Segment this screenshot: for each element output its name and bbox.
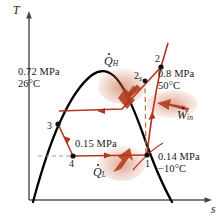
heat-absorbed-subscript: L: [102, 170, 106, 179]
expansion-direction-arrow: [64, 136, 71, 144]
state2-pressure-label: 0.8 MPa: [158, 68, 194, 79]
heat-rejected-subscript: H: [113, 59, 119, 68]
state1-pressure-label: 0.14 MPa: [158, 151, 200, 162]
work-input-label: Win: [177, 109, 193, 122]
state-label-4: 4: [69, 159, 74, 170]
state-point-3: [55, 121, 60, 126]
y-axis-arrowhead: [26, 11, 32, 19]
x-axis-arrowhead: [205, 197, 213, 203]
process-3-4-expansion: [58, 124, 73, 156]
x-axis-label: s: [211, 203, 216, 215]
state3-pressure-label: 0.72 MPa: [18, 66, 60, 77]
heat-rejected-label: QH: [104, 55, 118, 68]
state3-temperature-label: 26°C: [18, 78, 40, 89]
state-label-2s-subscript: s: [139, 74, 142, 83]
work-input-symbol: W: [177, 109, 187, 122]
state-point-2s: [143, 79, 148, 84]
heat-absorbed-symbol: Q: [93, 166, 102, 179]
state1-temperature-label: −10°C: [158, 163, 186, 174]
state-point-1: [144, 152, 149, 157]
heat-absorbed-label: QL: [93, 166, 106, 179]
y-axis-label: T: [13, 4, 20, 16]
state-label-1: 1: [145, 159, 150, 170]
heat-rejected-symbol: Q: [104, 55, 113, 68]
state-label-2s: 2s: [134, 71, 142, 83]
state-label-3: 3: [47, 121, 52, 132]
work-input-subscript: in: [187, 113, 193, 122]
state2-temperature-label: 50°C: [158, 80, 180, 91]
ts-diagram-figure: T s 0.72 MPa 26°C 3 0.15 MPa 4 0.8 MPa 5…: [0, 0, 221, 218]
state4-pressure-label: 0.15 MPa: [75, 138, 117, 149]
state-label-2: 2: [155, 54, 160, 65]
